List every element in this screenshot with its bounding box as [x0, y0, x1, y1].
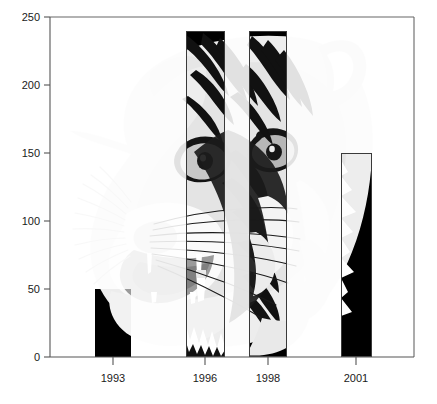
x-tick-label-1998: 1998 — [256, 372, 280, 384]
y-tick-label-100: 100 — [22, 215, 40, 227]
x-axis: 1993 1996 1998 2001 — [101, 357, 368, 384]
y-tick-label-250: 250 — [22, 11, 40, 23]
x-tick-label-1993: 1993 — [101, 372, 125, 384]
y-tick-label-50: 50 — [28, 283, 40, 295]
bar-chart-svg: 250 200 150 100 50 0 1993 1996 1998 2001 — [0, 0, 437, 404]
y-axis: 250 200 150 100 50 0 — [22, 11, 50, 363]
y-tick-label-150: 150 — [22, 147, 40, 159]
y-tick-label-0: 0 — [34, 351, 40, 363]
x-tick-label-2001: 2001 — [344, 372, 368, 384]
x-tick-label-1996: 1996 — [193, 372, 217, 384]
chart-container: 250 200 150 100 50 0 1993 1996 1998 2001 — [0, 0, 437, 404]
y-tick-label-200: 200 — [22, 79, 40, 91]
